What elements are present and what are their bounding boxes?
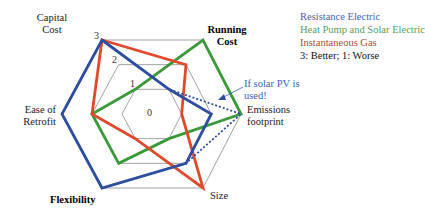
tick-label-3: 3 <box>94 30 99 41</box>
legend-item-gas: Instantaneous Gas <box>300 36 425 49</box>
legend-item-heat-pump: Heat Pump and Solar Electric <box>300 23 425 36</box>
tick-label-1: 1 <box>130 78 135 89</box>
axis-label-size: Size <box>210 190 228 202</box>
axis-label-running-cost: RunningCost <box>192 24 262 48</box>
arrowhead-icon <box>218 94 226 100</box>
legend: Resistance Electric Heat Pump and Solar … <box>300 10 425 62</box>
legend-note: 3: Better; 1: Worse <box>300 49 425 62</box>
axis-label-capital-cost: CapitalCost <box>22 12 82 36</box>
solar-pv-annotation: If solar PV isused! <box>244 78 300 102</box>
tick-label-2: 2 <box>112 54 117 65</box>
tick-label-0: 0 <box>147 107 152 118</box>
axis-label-emissions: Emissionsfootprint <box>247 104 290 128</box>
series-resistance-electric <box>62 40 211 188</box>
axis-label-ease-of-retrofit: Ease ofRetrofit <box>12 104 56 128</box>
legend-item-resistance: Resistance Electric <box>300 10 425 23</box>
axis-label-flexibility: Flexibility <box>50 194 96 206</box>
